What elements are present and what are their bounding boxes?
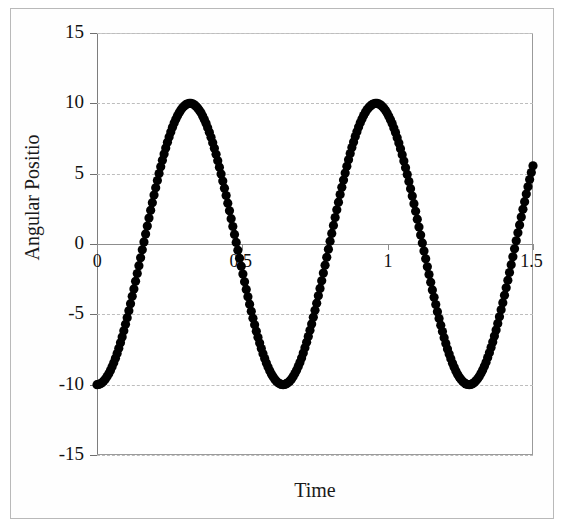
y-axis-tick [90, 455, 97, 456]
y-axis-tick-label: 15 [34, 22, 84, 41]
y-axis-tick [90, 244, 97, 245]
y-axis-tick [90, 174, 97, 175]
y-axis-tick [90, 103, 97, 104]
y-axis-tick [90, 314, 97, 315]
chart-figure: 151050-5-10-15 00.511.5 Angular Positio … [0, 0, 564, 528]
y-axis-tick-label: -5 [34, 303, 84, 322]
y-axis-tick-label: -15 [34, 444, 84, 463]
x-axis-tick [533, 244, 534, 250]
y-axis-tick-label: -10 [34, 374, 84, 393]
x-axis-title: Time [97, 479, 533, 502]
y-axis-tick [90, 33, 97, 34]
y-axis-title: Angular Positio [21, 98, 44, 298]
gridline [97, 455, 533, 456]
data-series-curve [97, 33, 533, 455]
